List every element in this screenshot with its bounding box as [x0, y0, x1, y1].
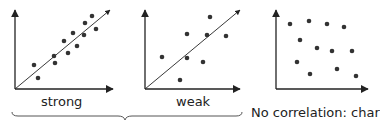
data-point [295, 60, 300, 65]
data-point [288, 22, 293, 27]
data-point [330, 49, 335, 54]
data-point [82, 33, 87, 38]
data-point [354, 74, 359, 79]
data-point [307, 19, 312, 24]
label-weak: weak [176, 94, 210, 109]
data-point [53, 61, 58, 66]
data-point [205, 33, 210, 38]
data-point [160, 55, 165, 60]
data-point [90, 14, 95, 19]
scatter-panel-none [276, 10, 368, 89]
data-point [224, 34, 229, 39]
data-point [178, 78, 183, 83]
data-point [71, 31, 76, 36]
trend-line [145, 10, 240, 89]
data-point [335, 67, 340, 72]
data-point [36, 76, 41, 81]
data-point [315, 46, 320, 51]
label-strong: strong [41, 94, 82, 109]
data-point [185, 56, 190, 61]
data-point [298, 38, 303, 43]
grouping-brace [12, 112, 242, 120]
data-point [350, 49, 355, 54]
data-point [201, 60, 206, 65]
scatter-panel-strong [15, 10, 113, 89]
label-no-correlation: No correlation: char [251, 105, 380, 120]
scatter-panel-weak [145, 10, 240, 89]
data-point [325, 22, 330, 27]
data-point [94, 27, 99, 32]
data-point [32, 63, 37, 68]
data-point [83, 21, 88, 26]
data-point [185, 32, 190, 37]
data-point [342, 25, 347, 30]
data-point [208, 15, 213, 20]
data-point [308, 72, 313, 77]
data-point [66, 51, 71, 56]
data-point [52, 54, 57, 59]
trend-line [15, 10, 110, 89]
data-point [62, 39, 67, 44]
data-point [75, 44, 80, 49]
